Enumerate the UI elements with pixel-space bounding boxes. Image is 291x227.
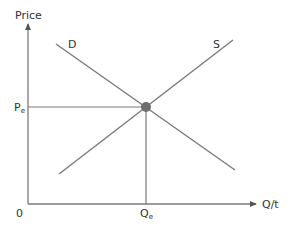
equilibrium-quantity-label: Qe <box>140 207 153 221</box>
origin-label: 0 <box>16 207 23 220</box>
x-axis-label: Q/t <box>262 198 279 211</box>
quantity-label-sub: e <box>149 213 153 221</box>
supply-label: S <box>213 38 220 51</box>
equilibrium-point <box>141 102 151 112</box>
supply-demand-diagram: Price D S Pe 0 Qe Q/t <box>0 0 291 227</box>
demand-label: D <box>68 38 76 51</box>
quantity-label-main: Q <box>140 207 149 220</box>
price-label-sub: e <box>21 107 25 115</box>
equilibrium-price-label: Pe <box>14 101 25 115</box>
y-axis-label: Price <box>15 9 42 22</box>
